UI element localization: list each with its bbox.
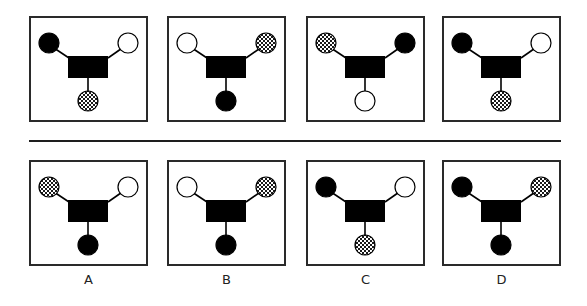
figure-glyph [29, 16, 148, 122]
option-panel-c[interactable] [306, 160, 425, 266]
bottom-checker-circle [78, 91, 98, 111]
left-black-circle [316, 177, 336, 197]
left-black-circle [39, 33, 59, 53]
figure-glyph [306, 16, 425, 122]
option-label-b: B [167, 272, 286, 288]
figure-glyph [442, 16, 561, 122]
figure-glyph [306, 160, 425, 266]
left-black-circle [452, 33, 472, 53]
top-panel-2 [167, 16, 286, 122]
bottom-white-circle [355, 91, 375, 111]
option-label-c: C [306, 272, 425, 288]
center-block [345, 56, 385, 78]
figure-glyph [167, 16, 286, 122]
bottom-black-circle [491, 235, 511, 255]
bottom-black-circle [78, 235, 98, 255]
bottom-black-circle [216, 91, 236, 111]
right-checker-circle [256, 177, 276, 197]
figure-glyph [167, 160, 286, 266]
left-white-circle [177, 177, 197, 197]
center-block [68, 56, 108, 78]
center-block [345, 200, 385, 222]
figure-glyph [29, 160, 148, 266]
right-black-circle [395, 33, 415, 53]
option-panel-a[interactable] [29, 160, 148, 266]
right-white-circle [531, 33, 551, 53]
right-white-circle [118, 177, 138, 197]
bottom-checker-circle [355, 235, 375, 255]
right-checker-circle [531, 177, 551, 197]
bottom-black-circle [216, 235, 236, 255]
left-checker-circle [316, 33, 336, 53]
top-panel-4 [442, 16, 561, 122]
center-block [206, 56, 246, 78]
figure-glyph [442, 160, 561, 266]
option-panel-d[interactable] [442, 160, 561, 266]
left-checker-circle [39, 177, 59, 197]
center-block [481, 200, 521, 222]
right-white-circle [118, 33, 138, 53]
right-checker-circle [256, 33, 276, 53]
option-panel-b[interactable] [167, 160, 286, 266]
option-label-a: A [29, 272, 148, 288]
center-block [68, 200, 108, 222]
top-panel-1 [29, 16, 148, 122]
bottom-checker-circle [491, 91, 511, 111]
center-block [206, 200, 246, 222]
option-label-d: D [442, 272, 561, 288]
divider-line [29, 140, 561, 142]
left-black-circle [452, 177, 472, 197]
right-white-circle [395, 177, 415, 197]
center-block [481, 56, 521, 78]
top-panel-3 [306, 16, 425, 122]
left-white-circle [177, 33, 197, 53]
